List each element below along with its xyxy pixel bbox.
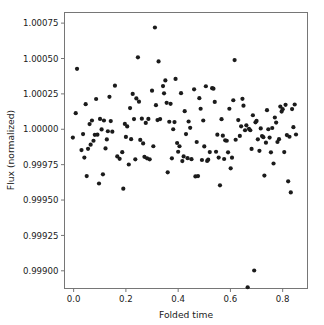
data-point — [233, 58, 237, 62]
data-point — [133, 157, 137, 161]
data-point — [291, 125, 295, 129]
data-point — [290, 107, 294, 111]
data-point — [266, 127, 270, 131]
data-point — [229, 166, 233, 170]
data-point — [102, 118, 106, 122]
data-point — [105, 137, 109, 141]
data-point — [271, 161, 275, 165]
data-point — [246, 285, 250, 289]
data-point — [106, 129, 110, 133]
data-point — [75, 67, 79, 71]
data-point — [252, 268, 256, 272]
data-point — [177, 144, 181, 148]
data-point — [204, 84, 208, 88]
data-point — [89, 143, 93, 147]
data-point — [249, 147, 253, 151]
data-point — [215, 133, 219, 137]
data-point — [238, 134, 242, 138]
data-point — [150, 89, 154, 93]
data-point — [283, 103, 287, 107]
scatter-plot-figure: 0.999000.999250.999500.999751.000001.000… — [0, 0, 324, 325]
data-point — [97, 181, 101, 185]
data-point — [184, 132, 188, 136]
data-point — [140, 117, 144, 121]
data-point — [268, 136, 272, 140]
y-tick-label: 0.99900 — [23, 266, 59, 276]
data-point — [248, 128, 252, 132]
data-point — [281, 107, 285, 111]
data-point — [101, 172, 105, 176]
data-point — [162, 91, 166, 95]
data-point — [200, 158, 204, 162]
data-point — [222, 157, 226, 161]
data-point — [91, 139, 95, 143]
data-point — [230, 156, 234, 160]
x-tick-label: 0.6 — [224, 294, 238, 304]
y-tick-label: 1.00050 — [23, 54, 59, 64]
data-point — [199, 107, 203, 111]
data-point — [239, 124, 243, 128]
x-tick-label: 0.2 — [119, 294, 133, 304]
data-point — [168, 102, 172, 106]
data-point — [206, 158, 210, 162]
y-tick-label: 0.99925 — [23, 231, 59, 241]
data-point — [146, 117, 150, 121]
x-tick-label: 0.0 — [67, 294, 81, 304]
data-point — [270, 126, 274, 130]
data-points-group — [71, 25, 298, 289]
data-point — [192, 87, 196, 91]
data-point — [136, 55, 140, 59]
y-tick-label: 0.99950 — [23, 195, 59, 205]
data-point — [269, 150, 273, 154]
data-point — [107, 95, 111, 99]
data-point — [219, 117, 223, 121]
data-point — [90, 118, 94, 122]
data-point — [132, 117, 136, 121]
data-point — [208, 150, 212, 154]
data-point — [234, 138, 238, 142]
data-point — [124, 135, 128, 139]
data-point — [257, 149, 261, 153]
data-point — [141, 141, 145, 145]
data-point — [151, 144, 155, 148]
data-point — [240, 97, 244, 101]
data-point — [261, 135, 265, 139]
data-point — [100, 127, 104, 131]
data-point — [82, 155, 86, 159]
data-point — [236, 118, 240, 122]
data-point — [211, 87, 215, 91]
data-point — [183, 109, 187, 113]
data-point — [163, 78, 167, 82]
data-point — [273, 115, 277, 119]
data-point — [170, 156, 174, 160]
data-point — [179, 91, 183, 95]
data-point — [214, 150, 218, 154]
x-tick-label: 0.8 — [276, 294, 290, 304]
data-point — [231, 98, 235, 102]
data-point — [118, 157, 122, 161]
data-point — [79, 148, 83, 152]
data-point — [265, 108, 269, 112]
y-tick-label: 1.00025 — [23, 89, 59, 99]
data-point — [182, 154, 186, 158]
data-point — [165, 101, 169, 105]
data-point — [127, 162, 131, 166]
data-point — [251, 113, 255, 117]
data-point — [87, 122, 91, 126]
data-point — [144, 121, 148, 125]
data-point — [217, 155, 221, 159]
data-point — [81, 132, 85, 136]
data-point — [138, 138, 142, 142]
data-point — [134, 96, 138, 100]
data-point — [274, 121, 278, 125]
data-point — [188, 126, 192, 130]
data-point — [98, 117, 102, 121]
data-point — [226, 150, 230, 154]
data-point — [120, 150, 124, 154]
data-point — [294, 132, 298, 136]
data-point — [189, 157, 193, 161]
data-point — [227, 107, 231, 111]
data-point — [282, 150, 286, 154]
data-point — [71, 136, 75, 140]
data-point — [158, 117, 162, 121]
